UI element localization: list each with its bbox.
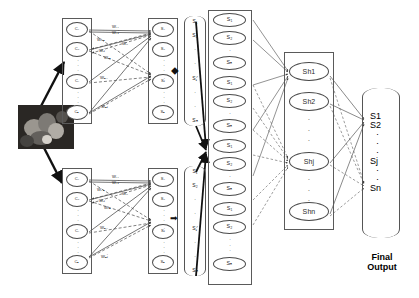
lower-weight-label-5: Wᵢₙ — [104, 205, 111, 210]
concat-node-9: S₁ — [213, 202, 246, 216]
final-output-caption-line2: Output — [360, 262, 404, 272]
lower-weight-label-3: Wᵢ₁ — [122, 191, 128, 196]
concat-node-6: S₁ — [213, 139, 246, 153]
upper-cluster-node-i: Cᵢ — [66, 74, 88, 89]
concat-gap-dots-2: · — [225, 173, 235, 179]
upper-score-node-j: Sⱼ — [152, 74, 174, 89]
upper-cluster-node-1: C₁ — [66, 22, 88, 37]
lower-vector-items: S₁ S₂ · · Sⱼ' · · Sₙ — [187, 169, 203, 273]
lower-score-node-n: Sₙ — [152, 255, 174, 270]
upper-vec-3: · — [194, 61, 196, 66]
final-output-caption-line1: Final — [360, 252, 404, 262]
upper-vector-items: S₁ S₂ · · Sⱼ' · · Sₙ — [187, 19, 203, 123]
lower-weight-label-0: W₁₁ — [112, 174, 119, 179]
upper-vec-1: S₂ — [192, 33, 197, 38]
lower-vec-4: Sⱼ' — [192, 226, 197, 231]
final-out-8: Sn — [370, 184, 381, 193]
concat-gap-dots-0: · — [225, 47, 235, 53]
upper-weight-label-4: Wᵢⱼ — [99, 48, 105, 53]
lower-weight-label-1: W₁ⱼ — [112, 180, 119, 185]
lower-cluster-node-n: Cₙ — [66, 255, 88, 270]
upper-connector-symbol: ⬥ — [171, 65, 179, 76]
concat-node-3: S₁ — [213, 76, 246, 90]
upper-score-ellipsis-b: ··· — [159, 91, 169, 104]
upper-score-ellipsis-a: ··· — [159, 59, 169, 72]
lower-vec-3: · — [194, 211, 196, 216]
concat-node-10: S₂ — [213, 220, 246, 234]
lower-weight-label-2: W₁ₙ — [97, 187, 105, 192]
lower-vec-5: · — [194, 240, 196, 245]
lower-vec-6: · — [194, 254, 196, 259]
lower-cluster-node-1: C₁ — [66, 172, 88, 187]
upper-vec-7: Sₙ — [192, 118, 197, 123]
lower-weight-label-7: Wₙⱼ — [101, 254, 108, 259]
upper-weight-label-3: Wᵢ₁ — [122, 41, 128, 46]
concat-tail-ellipsis: ··· — [225, 238, 235, 252]
lower-vec-7: Sₙ — [192, 268, 197, 273]
hidden-node-2: Sh2 — [289, 92, 329, 111]
lower-vec-1: S₂ — [192, 183, 197, 188]
concat-node-1: S₂ — [213, 31, 246, 45]
lower-score-node-1: S₁ — [152, 172, 174, 187]
upper-vec-0: S₁ — [192, 19, 197, 24]
upper-cluster-node-2: C₂ — [66, 42, 88, 57]
upper-weight-label-6: Wₙ₁ — [100, 75, 108, 80]
hidden-node-j: Shj — [289, 152, 329, 171]
final-output-caption: Final Output — [360, 252, 404, 273]
concat-node-11: Sₙ — [213, 257, 246, 271]
upper-cluster-ellipsis-a: ··· — [73, 59, 83, 72]
concat-node-4: S₂ — [213, 94, 246, 108]
lower-connector-symbol: ➡ — [170, 214, 178, 223]
final-output-items: S1 S2 · · · Sj · · Sn — [370, 112, 400, 193]
concat-node-2: Sₙ — [213, 56, 246, 70]
lower-score-ellipsis-a: ··· — [159, 209, 169, 222]
upper-vec-6: · — [194, 104, 196, 109]
hidden-node-n: Shn — [289, 202, 329, 221]
concat-node-5: Sₙ — [213, 119, 246, 133]
upper-weight-label-5: Wᵢₙ — [104, 55, 111, 60]
lower-cluster-ellipsis-a: ··· — [73, 209, 83, 222]
hidden-node-1: Sh1 — [289, 62, 329, 81]
upper-weight-label-2: W₁ₙ — [97, 37, 105, 42]
lower-score-node-2: S₂ — [152, 192, 174, 207]
lower-vec-2: · — [194, 197, 196, 202]
lower-vec-0: S₁ — [192, 169, 197, 174]
upper-vec-4: Sⱼ' — [192, 76, 197, 81]
upper-score-node-2: S₂ — [152, 42, 174, 57]
upper-cluster-ellipsis-b: ··· — [73, 91, 83, 104]
concat-gap-dots-1: · — [225, 110, 235, 116]
upper-weight-label-0: W₁₁ — [112, 24, 119, 29]
upper-vec-5: · — [194, 90, 196, 95]
lower-score-node-j: Sⱼ — [152, 224, 174, 239]
concat-node-0: S₁ — [213, 13, 246, 27]
lower-cluster-ellipsis-b: ··· — [73, 241, 83, 254]
upper-score-node-n: Sₙ — [152, 105, 174, 120]
diagram-canvas: C₁ C₂ ··· Cᵢ ··· Cₙ S₁ S₂ ··· Sⱼ ··· Sₙ … — [0, 0, 419, 298]
concat-node-8: Sₙ — [213, 182, 246, 196]
upper-weight-label-7: Wₙⱼ — [101, 104, 108, 109]
upper-weight-label-1: W₁ⱼ — [112, 30, 119, 35]
hidden-ellipsis-upper: ··· — [304, 118, 314, 142]
lower-cluster-node-i: Cᵢ — [66, 224, 88, 239]
lower-cluster-node-2: C₂ — [66, 192, 88, 207]
upper-score-node-1: S₁ — [152, 22, 174, 37]
concat-node-7: S₂ — [213, 157, 246, 171]
lower-weight-label-6: Wₙ₁ — [100, 225, 108, 230]
lower-score-ellipsis-b: ··· — [159, 241, 169, 254]
upper-vec-2: · — [194, 47, 196, 52]
hidden-ellipsis-lower: ··· — [304, 178, 314, 202]
upper-cluster-node-n: Cₙ — [66, 105, 88, 120]
lower-weight-label-4: Wᵢⱼ — [99, 198, 105, 203]
